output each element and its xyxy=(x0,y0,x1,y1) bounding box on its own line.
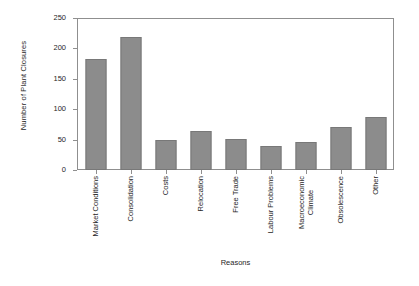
bar-chart-figure: Number of Plant Closures 050100150200250… xyxy=(0,0,419,286)
x-axis-category-text: Consolidation xyxy=(126,176,135,221)
bar-slot xyxy=(183,19,218,170)
x-axis-category-label: Labour Problems xyxy=(264,176,278,250)
x-axis-category-label: Obsolescence xyxy=(334,176,348,250)
y-axis-tick: 150 xyxy=(0,79,77,80)
y-axis-tick: 0 xyxy=(0,170,77,171)
x-axis-category-label: Free Trade xyxy=(229,176,243,250)
y-axis-tick-label: 100 xyxy=(53,104,66,113)
x-axis-category-text: Macroeconomic Climate xyxy=(297,176,314,229)
bars-container xyxy=(78,19,393,170)
bar[interactable] xyxy=(365,117,386,170)
x-axis-category-label: Consolidation xyxy=(124,176,138,250)
bar-slot xyxy=(253,19,288,170)
x-axis-category-text: Market Conditions xyxy=(91,176,100,236)
y-axis-tick-mark xyxy=(73,170,77,171)
x-axis-category-label: Market Conditions xyxy=(89,176,103,250)
x-axis-tick-mark xyxy=(201,170,202,174)
x-axis-category-label: Other xyxy=(369,176,383,250)
bar[interactable] xyxy=(260,146,281,170)
x-axis-category-text: Other xyxy=(371,176,380,195)
y-axis-title: Number of Plant Closures xyxy=(16,0,32,170)
bar-slot xyxy=(323,19,358,170)
y-axis-tick: 100 xyxy=(0,109,77,110)
x-axis-category-text: Relocation xyxy=(196,176,205,211)
bar-slot xyxy=(358,19,393,170)
bar-slot xyxy=(218,19,253,170)
y-axis-tick-label: 0 xyxy=(62,165,66,174)
x-axis-tick-mark xyxy=(131,170,132,174)
x-axis-tick-mark xyxy=(271,170,272,174)
bar[interactable] xyxy=(120,37,141,170)
bar[interactable] xyxy=(225,139,246,170)
bar-slot xyxy=(113,19,148,170)
y-axis-tick-label: 250 xyxy=(53,13,66,22)
bar[interactable] xyxy=(330,127,351,170)
x-axis-tick-mark xyxy=(306,170,307,174)
y-axis-tick-label: 50 xyxy=(58,135,66,144)
x-axis-category-text: Labour Problems xyxy=(266,176,275,233)
bar[interactable] xyxy=(190,131,211,170)
x-axis-tick-mark xyxy=(376,170,377,174)
y-axis-tick: 50 xyxy=(0,140,77,141)
y-axis-tick-label: 200 xyxy=(53,43,66,52)
x-axis-category-text: Free Trade xyxy=(231,176,240,213)
x-axis-category-text: Costs xyxy=(161,176,170,195)
bar-slot xyxy=(78,19,113,170)
x-axis-category-label: Costs xyxy=(159,176,173,250)
bar-slot xyxy=(288,19,323,170)
x-axis-category-label: Macroeconomic Climate xyxy=(299,176,313,250)
bar[interactable] xyxy=(295,142,316,170)
y-axis-tick: 250 xyxy=(0,18,77,19)
y-axis-tick-label: 150 xyxy=(53,74,66,83)
x-axis-tick-mark xyxy=(236,170,237,174)
y-axis-title-label: Number of Plant Closures xyxy=(20,40,29,129)
y-axis-tick: 200 xyxy=(0,48,77,49)
bar-slot xyxy=(148,19,183,170)
x-axis-category-text: Obsolescence xyxy=(336,176,345,224)
x-axis-tick-mark xyxy=(96,170,97,174)
x-axis-category-label: Relocation xyxy=(194,176,208,250)
x-axis-title: Reasons xyxy=(77,258,394,267)
x-axis-tick-mark xyxy=(166,170,167,174)
x-axis-tick-mark xyxy=(341,170,342,174)
bar[interactable] xyxy=(155,140,176,170)
bar[interactable] xyxy=(85,59,106,170)
